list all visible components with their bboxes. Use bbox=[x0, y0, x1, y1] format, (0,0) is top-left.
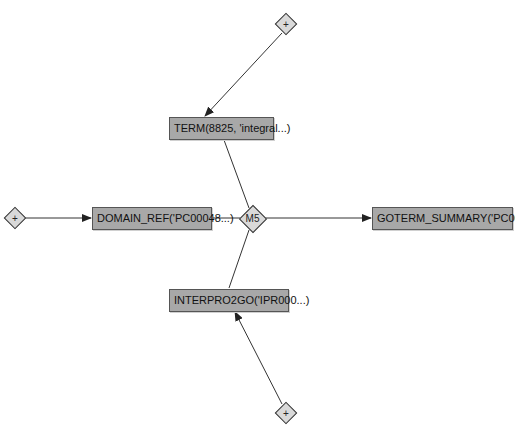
m5-label: M5 bbox=[238, 204, 267, 233]
plus-icon: + bbox=[3, 206, 27, 230]
plus-node-top[interactable]: + bbox=[274, 12, 298, 36]
plus-node-left[interactable]: + bbox=[3, 206, 27, 230]
domain-ref-node[interactable]: DOMAIN_REF('PC00048...) bbox=[92, 207, 212, 230]
edge-plus-top-to-term bbox=[205, 33, 282, 116]
plus-icon: + bbox=[274, 12, 298, 36]
term-node[interactable]: TERM(8825, 'integral...) bbox=[169, 117, 274, 140]
plus-node-bottom[interactable]: + bbox=[274, 401, 298, 425]
plus-icon: + bbox=[274, 401, 298, 425]
goterm-summary-node[interactable]: GOTERM_SUMMARY('PC00...) bbox=[372, 207, 513, 230]
edge-interpro2go-to-m5 bbox=[229, 230, 249, 288]
diagram-canvas: + TERM(8825, 'integral...) + DOMAIN_REF(… bbox=[0, 0, 515, 432]
m5-node[interactable]: M5 bbox=[238, 204, 267, 233]
interpro2go-node[interactable]: INTERPRO2GO('IPR000...) bbox=[169, 289, 289, 312]
edge-term-to-m5 bbox=[224, 140, 249, 208]
edge-plus-bottom-to-interpro2go bbox=[235, 312, 282, 404]
